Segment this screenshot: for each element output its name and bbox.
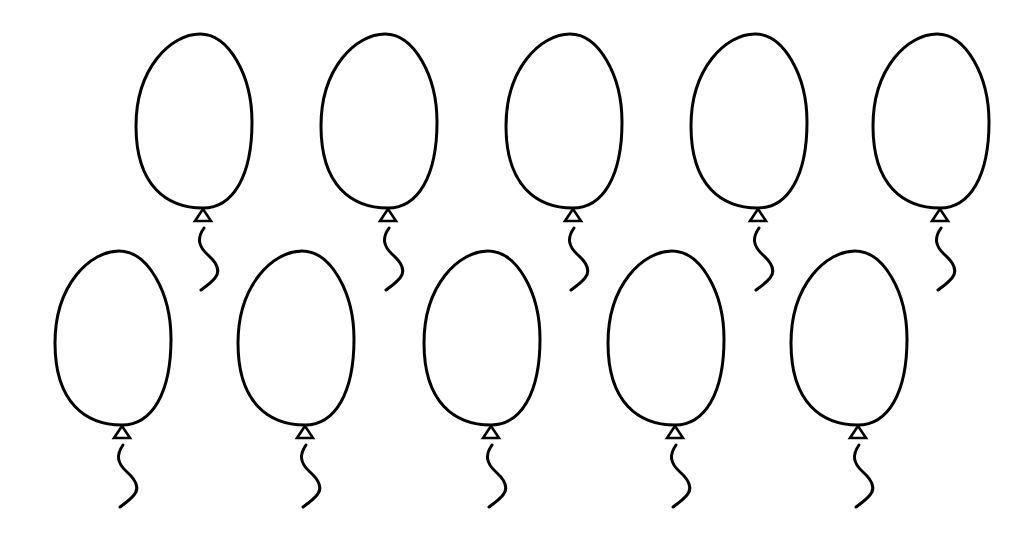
balloon-coloring-sheet [0, 0, 1034, 543]
